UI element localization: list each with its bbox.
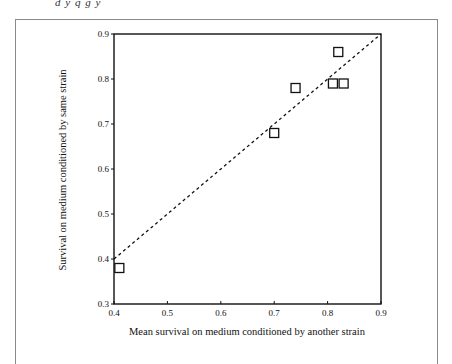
y-tick-label: 0.5 [98, 209, 110, 219]
y-tick-label: 0.4 [98, 254, 110, 264]
data-point-square [115, 264, 124, 273]
reference-line [114, 34, 381, 259]
data-point-square [328, 79, 337, 88]
plot-box [114, 34, 381, 304]
y-tick-label: 0.3 [98, 299, 110, 309]
x-tick-label: 0.5 [162, 308, 174, 318]
data-point-square [270, 129, 279, 138]
data-point-square [339, 79, 348, 88]
x-tick-label: 0.9 [375, 308, 387, 318]
x-tick-label: 0.6 [215, 308, 227, 318]
y-axis-title: Survival on medium conditioned by same s… [57, 69, 68, 271]
data-point-square [291, 84, 300, 93]
y-tick-label: 0.8 [98, 74, 110, 84]
identity-line [114, 34, 381, 259]
x-tick-label: 0.8 [322, 308, 334, 318]
x-tick-label: 0.4 [108, 308, 120, 318]
y-tick-label: 0.6 [98, 164, 110, 174]
y-tick-label: 0.7 [98, 119, 110, 129]
data-points [115, 48, 348, 273]
x-tick-label: 0.7 [269, 308, 281, 318]
x-axis-title: Mean survival on medium conditioned by a… [129, 326, 366, 337]
axes: 0.40.50.60.70.80.90.30.40.50.60.70.80.9 [98, 29, 387, 318]
y-tick-label: 0.9 [98, 29, 110, 39]
data-point-square [334, 48, 343, 57]
